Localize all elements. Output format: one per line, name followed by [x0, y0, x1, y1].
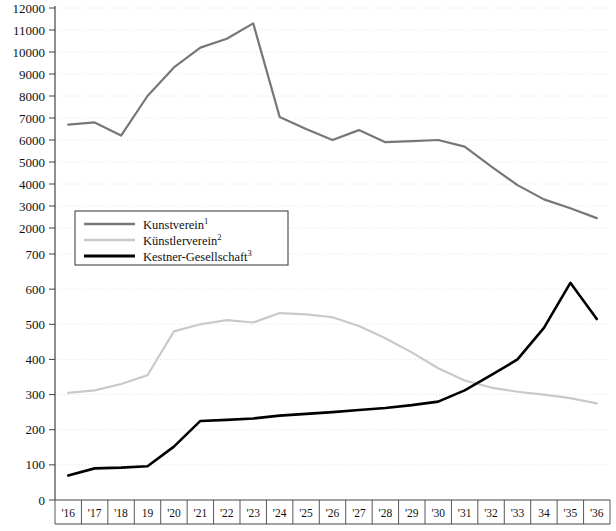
legend: Kunstverein1Künstlerverein2Kestner-Gesel… [75, 211, 288, 265]
y-tick-label: 200 [26, 422, 46, 437]
x-tick-label: '28 [379, 507, 393, 519]
x-tick-label: '27 [352, 507, 366, 519]
y-tick-label: 700 [26, 247, 46, 262]
y-tick-label: 600 [26, 282, 46, 297]
x-tick-label: '22 [220, 507, 234, 519]
x-tick-label: 34 [538, 507, 550, 519]
legend-label-3: Kestner-Gesellschaft3 [143, 248, 252, 264]
y-tick-label: 9000 [19, 67, 45, 82]
y-tick-label: 7000 [19, 111, 45, 126]
y-tick-label: 3000 [19, 199, 45, 214]
y-tick-label: 0 [39, 493, 46, 508]
y-tick-label: 100 [26, 457, 46, 472]
line-chart: 1200011000100009000800070006000500040003… [0, 0, 616, 531]
x-tick-label: '18 [114, 507, 128, 519]
x-tick-label: '29 [405, 507, 419, 519]
y-tick-label: 500 [26, 317, 46, 332]
x-tick-label: '24 [273, 507, 287, 519]
chart-container: 1200011000100009000800070006000500040003… [0, 0, 616, 531]
x-tick-label: '32 [484, 507, 498, 519]
y-tick-label: 4000 [19, 177, 45, 192]
x-tick-label: '21 [194, 507, 208, 519]
x-tick-label: '33 [511, 507, 525, 519]
y-tick-label: 8000 [19, 89, 45, 104]
x-tick-label: 19 [142, 507, 154, 519]
x-tick-label: '23 [246, 507, 260, 519]
x-tick-label: '35 [564, 507, 578, 519]
legend-footnote-2: 2 [217, 232, 221, 242]
x-tick-label: '16 [61, 507, 75, 519]
x-axis-ticks: '16'17'1819'20'21'22'23'24'25'26'27'28'2… [61, 507, 603, 519]
y-tick-label: 12000 [13, 1, 46, 16]
x-tick-label: '26 [326, 507, 340, 519]
x-tick-label: '36 [590, 507, 604, 519]
x-tick-label: '31 [458, 507, 472, 519]
x-tick-label: '25 [299, 507, 313, 519]
y-tick-label: 5000 [19, 155, 45, 170]
x-tick-label: '20 [167, 507, 181, 519]
x-tick-label: '17 [88, 507, 102, 519]
y-tick-label: 2000 [19, 221, 45, 236]
legend-footnote-3: 3 [248, 248, 252, 258]
legend-label-1: Kunstverein1 [143, 216, 208, 232]
y-tick-label: 10000 [13, 45, 46, 60]
y-tick-label: 400 [26, 352, 46, 367]
y-tick-label: 11000 [13, 23, 45, 38]
y-tick-label: 300 [26, 387, 46, 402]
legend-label-2: Künstlerverein2 [143, 232, 222, 248]
y-tick-label: 6000 [19, 133, 45, 148]
legend-footnote-1: 1 [204, 216, 208, 226]
x-tick-label: '30 [431, 507, 445, 519]
